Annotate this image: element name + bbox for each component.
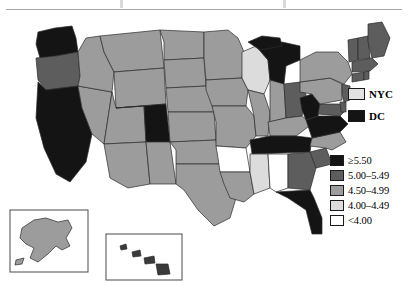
legend-swatch [330,200,344,211]
state-ri[interactable] [364,71,369,80]
state-me[interactable] [368,22,390,58]
state-vt[interactable] [348,38,358,62]
alaska-inset [10,210,88,272]
header-text-remnant [120,0,123,8]
legend-label: <4.00 [348,215,372,226]
state-in[interactable] [270,80,286,122]
callout-dc[interactable]: DC [348,110,385,122]
state-mo[interactable] [212,106,256,148]
state-nm[interactable] [146,142,176,184]
state-fl[interactable] [276,190,322,234]
callout-nyc-swatch [348,88,365,100]
legend-swatch [330,170,344,181]
state-ct[interactable] [352,72,364,82]
legend-label: ≥5.50 [348,155,372,166]
state-wy[interactable] [114,68,166,108]
state-ok[interactable] [170,140,220,164]
state-ia[interactable] [206,78,248,106]
state-tn[interactable] [250,136,312,154]
state-ks[interactable] [168,112,216,142]
state-ar[interactable] [216,146,250,172]
figure-root: NYC DC ≥5.50 5.00–5.49 4.50–4.99 4.00–4.… [0,0,408,282]
legend-swatch [330,215,344,226]
state-al[interactable] [268,154,288,192]
top-divider-rule [6,9,402,10]
legend-label: 4.00–4.49 [348,200,389,211]
state-az[interactable] [104,142,150,188]
us-choropleth-map [0,12,408,282]
callout-nyc-label: NYC [369,88,393,100]
state-de[interactable] [340,102,346,112]
legend-item[interactable]: ≥5.50 [330,154,408,167]
legend-label: 4.50–4.99 [348,185,389,196]
legend-item[interactable]: <4.00 [330,214,408,227]
legend-swatch [330,185,344,196]
callout-nyc[interactable]: NYC [348,88,393,100]
state-hi-bigisland[interactable] [156,264,170,275]
state-mn[interactable] [204,30,244,80]
state-or[interactable] [36,52,80,90]
state-nd[interactable] [160,30,204,60]
legend-label: 5.00–5.49 [348,170,389,181]
callout-dc-label: DC [369,110,385,122]
map-legend: ≥5.50 5.00–5.49 4.50–4.99 4.00–4.49 <4.0… [330,154,408,229]
map-svg [0,12,408,282]
state-ms[interactable] [250,154,270,194]
callout-dc-swatch [348,110,365,122]
state-sd[interactable] [164,58,206,88]
legend-swatch [330,155,344,166]
legend-item[interactable]: 5.00–5.49 [330,169,408,182]
header-text-remnant [283,0,286,8]
legend-item[interactable]: 4.50–4.99 [330,184,408,197]
legend-item[interactable]: 4.00–4.49 [330,199,408,212]
hawaii-inset-frame [106,234,182,280]
hawaii-inset [106,234,182,280]
